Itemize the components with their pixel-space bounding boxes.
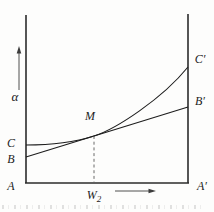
label-B-prime: B′ [195, 95, 205, 107]
label-A: A [7, 180, 14, 192]
cut-off-caption [2, 205, 206, 209]
label-W2-base: W [87, 188, 97, 202]
label-W2: W2 [87, 189, 102, 204]
label-B: B [7, 153, 14, 165]
curve-CC-prime [26, 67, 188, 145]
label-A-prime: A′ [197, 180, 207, 192]
label-W2-subscript: 2 [97, 194, 102, 204]
line-BB-prime [26, 107, 188, 157]
label-M: M [85, 110, 95, 122]
y-axis-label: α [12, 90, 19, 103]
diagram-canvas [0, 0, 214, 212]
up-arrow-icon [17, 46, 22, 90]
figure-diagram: α C B A M C′ B′ A′ W2 [0, 0, 214, 212]
label-C-prime: C′ [195, 53, 206, 65]
label-C: C [7, 137, 15, 149]
right-arrow-icon [115, 189, 156, 193]
